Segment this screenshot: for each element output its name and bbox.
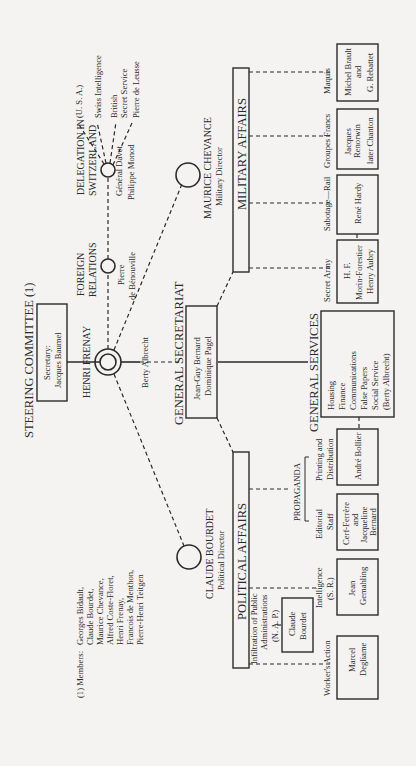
propaganda-title: PROPAGANDA <box>292 462 302 521</box>
footnote-member: Georges Bidault, <box>75 587 85 645</box>
nap-label1: Infiltration of Public <box>249 593 259 664</box>
foreign-relations-person2: de Bénouville <box>127 252 137 300</box>
berty-albrecht-label: Berty Albrecht <box>140 337 150 388</box>
intelligence-person: Jean <box>347 580 357 596</box>
general-services-item: Finance <box>337 383 347 410</box>
military-director-role: Military Director <box>214 147 224 206</box>
general-services-item: Communications <box>348 351 358 410</box>
workers-person: Marcel <box>347 647 357 672</box>
general-services-title: GENERAL SERVICES <box>307 313 321 432</box>
intelligence-label2: (S. R.) <box>325 577 335 600</box>
political-affairs-title: POLITICAL AFFAIRS <box>235 503 249 620</box>
delegation-node <box>101 163 115 177</box>
footnote-member: Francois de Menthon, <box>125 570 135 645</box>
org-chart: STEERING COMMITTEE (1) Secretary: Jacque… <box>0 0 416 766</box>
footnote-member: Alfred Coste-Floret, <box>105 575 115 645</box>
footnote-member: Henri Frenay, <box>115 598 125 645</box>
delegation-link-leusse: Pierre de Leusse <box>131 61 141 118</box>
military-unit-label: Groupes Francs <box>322 113 332 168</box>
footnote-member: Maurice Chevance, <box>95 578 105 645</box>
chart-title: STEERING COMMITTEE (1) <box>22 282 36 438</box>
intelligence-label1: Intelligence <box>314 567 324 608</box>
editorial-label2: Staff <box>325 513 335 530</box>
delegation-link-usa: (U. S. A.) <box>74 85 84 118</box>
nap-person: Claude <box>287 611 297 636</box>
general-services-item: Social Service <box>370 360 380 410</box>
general-services-item: Housing <box>326 380 336 410</box>
military-unit-person: Renorwin <box>352 123 362 158</box>
printing-label1: Printing and <box>314 438 324 481</box>
footnote-member: Pierre-Henri Teitgen <box>135 574 145 645</box>
military-unit-person: Henry Aubry <box>365 248 375 294</box>
general-services-item: (Berty Albrecht) <box>381 353 391 410</box>
editorial-person: Bernard <box>368 508 378 536</box>
printing-person: André Bollier <box>353 432 363 480</box>
printing-label2: Distribution <box>325 438 335 480</box>
general-secretariat-title: GENERAL SECRETARIAT <box>172 281 186 425</box>
editorial-label1: Editorial <box>314 508 324 539</box>
military-unit-person: Morin-Forestier <box>354 245 364 300</box>
general-secretariat-line1: Jean-Guy Bernard <box>192 337 202 400</box>
military-unit-person: Michel Brault <box>343 47 353 96</box>
military-unit-person: later Chanton <box>365 117 375 164</box>
military-unit-person: and <box>353 65 363 78</box>
foreign-relations-line2: RELATIONS <box>87 243 98 297</box>
military-unit-person: G. Rebattet <box>365 52 375 92</box>
general-secretariat-line2: Dominique Pagel <box>203 335 213 396</box>
nap-label2: Administrations <box>259 594 269 650</box>
military-unit-person: René Hardy <box>353 182 363 224</box>
intelligence-person: Gemahling <box>358 566 368 605</box>
delegation-line1: DELEGATION IN <box>75 119 86 195</box>
delegation-link-swiss: Swiss Intelligence <box>93 55 103 118</box>
footnote-prefix: (1) Members: <box>75 651 85 698</box>
delegation-line2: SWITZERLAND <box>87 125 98 196</box>
delegation-link-british: British <box>109 94 119 118</box>
military-affairs-title: MILITARY AFFAIRS <box>235 98 249 210</box>
political-director-name: CLAUDE BOURDET <box>204 509 215 599</box>
political-director-role: Political Director <box>216 530 226 590</box>
leader-node-inner <box>100 354 116 370</box>
military-director-node <box>176 163 200 187</box>
delegation-person1: Général Davet <box>114 146 124 196</box>
footnote-member: Claude Bourdet, <box>85 589 95 645</box>
delegation-link-secret-service: Secret Service <box>119 68 129 118</box>
leader-name: HENRI FRENAY <box>81 326 92 398</box>
delegation-person2: Philippe Monod <box>126 144 136 200</box>
secretary-line1: Secretary: <box>42 345 52 380</box>
nap-label3: (N. A. P.) <box>270 610 280 642</box>
military-unit-label: Sabotage—Rail <box>322 176 332 231</box>
political-director-node <box>177 545 201 569</box>
secretary-line2: Jacques Baumel <box>53 332 63 388</box>
military-director-name: MAURICE CHEVANCE <box>202 117 213 219</box>
military-unit-person: H. F. <box>342 262 352 279</box>
military-unit-label: Maquis <box>322 68 332 94</box>
workers-label: Worker's Action <box>322 640 332 696</box>
workers-person: Degliame <box>358 642 368 676</box>
foreign-relations-node <box>101 259 115 273</box>
foreign-relations-person1: Pierre <box>116 264 126 285</box>
military-unit-label: Secret Army <box>322 258 332 302</box>
general-services-item: False Papers <box>359 366 369 410</box>
foreign-relations-line1: FOREIGN <box>75 253 86 296</box>
nap-person: Bourdet <box>298 612 308 640</box>
